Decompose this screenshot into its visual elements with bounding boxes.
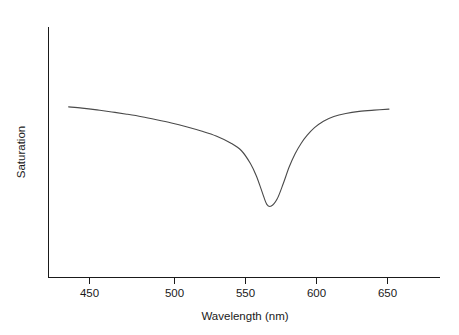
x-tick-label-500: 500 bbox=[165, 287, 184, 299]
x-tick-label-650: 650 bbox=[378, 287, 397, 299]
x-tick-label-600: 600 bbox=[307, 287, 326, 299]
x-axis-title: Wavelength (nm) bbox=[201, 310, 288, 322]
line-chart-canvas: 450 500 550 600 650 Wavelength (nm) Satu… bbox=[0, 0, 459, 335]
x-axis-tick-labels: 450 500 550 600 650 bbox=[80, 287, 397, 299]
chart-figure: 450 500 550 600 650 Wavelength (nm) Satu… bbox=[0, 0, 459, 335]
x-tick-label-550: 550 bbox=[236, 287, 255, 299]
saturation-curve bbox=[69, 107, 389, 207]
y-axis-title: Saturation bbox=[15, 126, 27, 178]
x-tick-label-450: 450 bbox=[80, 287, 99, 299]
